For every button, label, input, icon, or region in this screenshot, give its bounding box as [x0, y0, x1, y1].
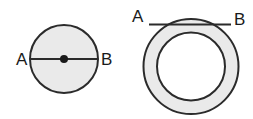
right-label-b: B	[234, 10, 245, 29]
right-annulus-inner-circle	[157, 33, 225, 101]
right-annulus-figure: A B	[132, 7, 245, 114]
left-circle-figure: A B	[16, 25, 112, 93]
left-circle-center-dot	[60, 55, 68, 63]
geometry-diagram: Circle and annulus geometry diagram A B …	[0, 0, 253, 119]
figure-canvas: Circle and annulus geometry diagram A B …	[0, 0, 253, 119]
left-label-b: B	[101, 50, 112, 69]
left-label-a: A	[16, 50, 28, 69]
right-label-a: A	[132, 7, 144, 26]
